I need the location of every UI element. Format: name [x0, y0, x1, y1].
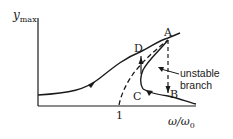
- x-axis-label: ω/ω0: [168, 115, 195, 130]
- annotation-line-1: unstable: [180, 67, 220, 79]
- resonance-diagram: ymax ω/ω0 1 A B C D unstable branch: [0, 0, 233, 139]
- point-a-label: A: [163, 26, 173, 39]
- point-b-label: B: [170, 88, 178, 101]
- y-axis-label: ymax: [12, 8, 37, 24]
- jump-up-arrow-icon: [139, 57, 144, 64]
- upper-stable-branch: [38, 33, 180, 95]
- point-d-label: D: [134, 42, 143, 55]
- annotation-leader: [161, 69, 179, 74]
- x-tick-1: 1: [116, 109, 123, 122]
- annotation-line-2: branch: [180, 79, 212, 91]
- unstable-branch: [141, 40, 168, 89]
- point-c-label: C: [133, 90, 141, 103]
- upper-branch-arrow-icon: [88, 82, 95, 88]
